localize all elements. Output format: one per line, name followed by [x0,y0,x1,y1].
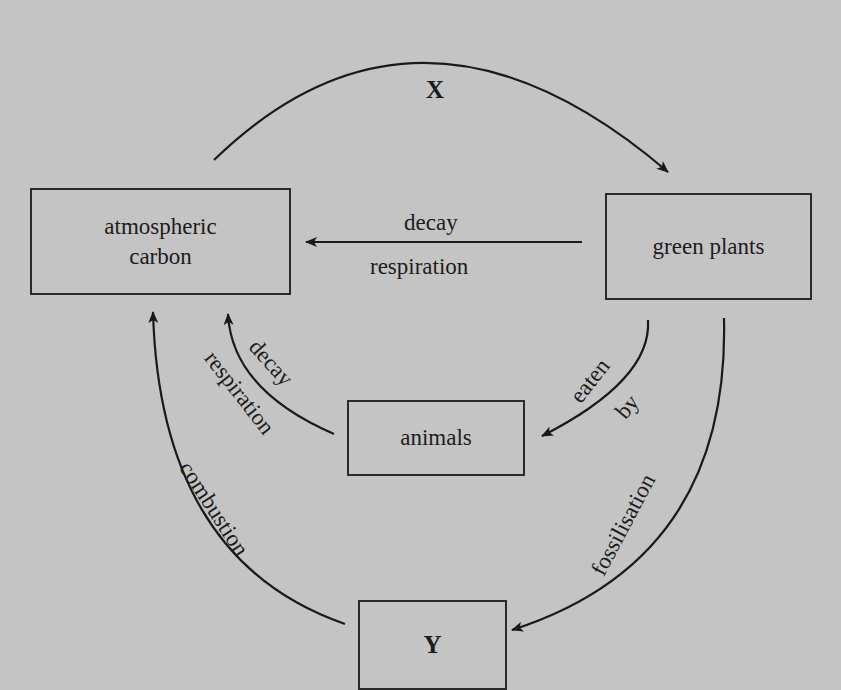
node-y: Y [358,600,507,690]
node-green-plants-label: green plants [653,232,765,262]
arrow-fossilisation [512,318,724,630]
label-plants-decay: decay [404,210,458,236]
label-x: X [426,76,444,104]
node-animals: animals [347,400,525,476]
node-y-label: Y [423,630,441,660]
node-atmospheric-carbon-line1: atmospheric [104,212,216,242]
node-green-plants: green plants [605,193,812,300]
node-animals-label: animals [400,423,472,453]
label-plants-respiration: respiration [370,254,468,280]
node-atmospheric-carbon: atmospheric carbon [30,188,291,295]
node-atmospheric-carbon-line2: carbon [129,242,192,272]
